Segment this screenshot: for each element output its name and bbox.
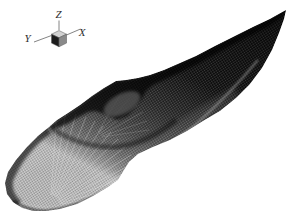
mesh-figure: Z Y X bbox=[0, 0, 293, 214]
axis-label-y: Y bbox=[24, 32, 32, 44]
blade-mesh-body bbox=[0, 0, 293, 214]
axis-label-x: X bbox=[78, 26, 87, 38]
axis-label-z: Z bbox=[55, 8, 62, 20]
axis-line-y bbox=[34, 36, 52, 43]
axis-cube bbox=[52, 31, 67, 47]
figure-canvas: Z Y X bbox=[0, 0, 293, 214]
axis-triad: Z Y X bbox=[24, 8, 86, 47]
tip-shadow bbox=[185, 0, 293, 130]
